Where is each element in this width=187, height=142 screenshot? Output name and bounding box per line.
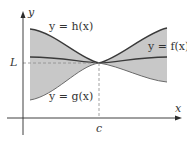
y-axis-arrow-icon <box>21 11 26 18</box>
diagram-canvas <box>0 0 187 142</box>
x-axis-arrow-icon <box>175 116 182 121</box>
h-curve-label: y = h(x) <box>49 21 93 32</box>
x-axis-label: x <box>175 103 181 114</box>
f-curve-label: y = f(x) <box>148 41 187 52</box>
c-label: c <box>96 123 102 134</box>
L-label: L <box>10 57 17 68</box>
g-curve-label: y = g(x) <box>49 91 93 102</box>
squeeze-theorem-diagram: y x L c y = h(x) y = f(x) y = g(x) <box>0 0 187 142</box>
y-axis-label: y <box>28 7 34 18</box>
